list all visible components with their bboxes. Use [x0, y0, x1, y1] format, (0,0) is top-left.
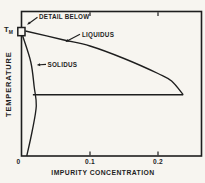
- liquidus-arrow-line: [68, 34, 80, 40]
- detail-below-label: DETAIL BELOW: [39, 13, 89, 20]
- curves-group: [23, 31, 183, 156]
- phase-diagram-figure: 00.10.2 TM DETAIL BELOW LIQUIDUS SOLIDUS…: [0, 0, 205, 183]
- x-axis-title: IMPURITY CONCENTRATION: [51, 169, 154, 176]
- x-tick-label: 0.1: [85, 158, 95, 165]
- detail-arrow-line: [29, 17, 37, 23]
- solidus-label: SOLIDUS: [48, 61, 78, 68]
- tm-axis-label: TM: [4, 25, 13, 35]
- y-axis-title: TEMPERATURE: [4, 51, 13, 117]
- phase-diagram-svg: 00.10.2 TM DETAIL BELOW LIQUIDUS SOLIDUS…: [0, 0, 205, 183]
- detail-region-marker: [18, 28, 25, 36]
- solidus-arrowhead-icon: [37, 63, 41, 66]
- liquidus-label: LIQUIDUS: [82, 31, 114, 39]
- solidus-curve: [23, 36, 37, 156]
- x-tick-label: 0: [17, 158, 21, 165]
- x-tick-label: 0.2: [153, 158, 163, 165]
